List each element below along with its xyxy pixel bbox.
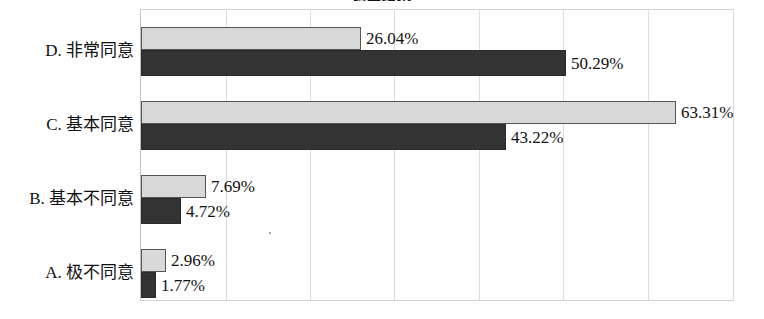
bar-dark-2 — [141, 124, 506, 150]
bar-value-dark-3: 4.72% — [186, 203, 230, 221]
bar-dark-3 — [141, 198, 181, 224]
plot-area: 26.04%50.29%63.31%43.22%7.69%4.72%2.96%1… — [140, 9, 734, 301]
bar-value-dark-2: 43.22% — [511, 129, 563, 147]
bar-value-dark-1: 50.29% — [571, 55, 623, 73]
gridline-70 — [733, 10, 734, 300]
bar-value-light-2: 63.31% — [681, 104, 733, 122]
bar-value-light-4: 2.96% — [171, 252, 215, 270]
category-label-2: C. 基本同意 — [0, 115, 134, 135]
bar-dark-1 — [141, 50, 566, 76]
scan-speck — [269, 232, 271, 234]
bar-value-light-3: 7.69% — [211, 178, 255, 196]
bar-value-light-1: 26.04% — [366, 30, 418, 48]
bar-light-3 — [141, 175, 206, 198]
bar-light-2 — [141, 101, 676, 124]
bar-dark-4 — [141, 272, 156, 298]
category-label-1: D. 非常同意 — [0, 41, 134, 61]
bar-light-1 — [141, 27, 361, 50]
category-label-3: B. 基本不同意 — [0, 189, 134, 209]
gridline-60 — [648, 10, 649, 300]
chart-title: 调查结果 — [0, 0, 764, 1]
bar-light-4 — [141, 249, 166, 272]
category-label-4: A. 极不同意 — [0, 263, 134, 283]
bar-value-dark-4: 1.77% — [161, 277, 205, 295]
bar-chart: 调查结果 D. 非常同意C. 基本同意B. 基本不同意A. 极不同意 26.04… — [0, 0, 764, 319]
